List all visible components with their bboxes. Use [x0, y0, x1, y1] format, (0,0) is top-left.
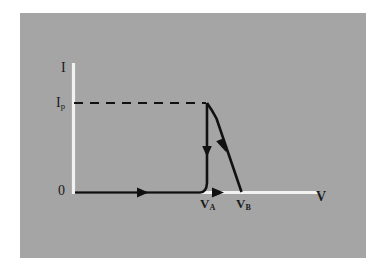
- load-line-rise: [75, 103, 207, 193]
- x-tick-va-base: V: [200, 196, 209, 211]
- y-tick-label-peak-current: Ip: [56, 96, 65, 110]
- origin-label: 0: [58, 184, 65, 198]
- x-tick-va-subscript: A: [209, 203, 215, 212]
- x-tick-vb-base: V: [236, 196, 245, 211]
- x-tick-label-va: VA: [200, 197, 215, 210]
- y-tick-label-base: I: [56, 95, 61, 110]
- x-tick-vb-subscript: B: [245, 203, 250, 212]
- iv-characteristic-plot: [0, 0, 382, 275]
- y-tick-label-subscript: p: [61, 101, 65, 111]
- x-axis-label: V: [316, 190, 326, 204]
- x-tick-label-vb: VB: [236, 197, 251, 210]
- figure-root: I Ip 0 VA VB V: [0, 0, 382, 275]
- flow-arrow-horizontal: [137, 187, 149, 197]
- y-axis-label: I: [61, 61, 66, 75]
- flow-arrow-vertical-drop: [202, 146, 212, 157]
